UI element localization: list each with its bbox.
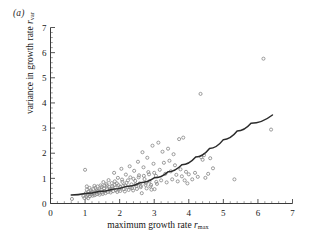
data-point — [179, 168, 182, 171]
x-tick-label: 4 — [187, 208, 192, 218]
y-axis-title-subscript: var — [28, 12, 35, 20]
minor-ticks — [51, 33, 286, 204]
y-tick-label: 3 — [42, 123, 47, 133]
data-point — [85, 185, 88, 188]
data-point — [204, 176, 207, 179]
x-tick-label: 7 — [290, 208, 295, 218]
major-ticks — [51, 28, 293, 204]
y-tick-label: 4 — [42, 98, 47, 108]
data-point — [128, 165, 131, 168]
data-point — [102, 181, 105, 184]
data-point — [110, 182, 113, 185]
data-point — [161, 150, 164, 153]
data-point — [137, 176, 140, 179]
data-point — [152, 162, 155, 165]
y-axis-title-variable: r — [25, 20, 35, 24]
data-point — [160, 179, 163, 182]
data-point — [153, 171, 156, 174]
data-point — [176, 180, 179, 183]
y-tick-label: 2 — [42, 148, 47, 158]
data-point — [142, 174, 145, 177]
x-axis-title-text: maximum growth rate — [107, 220, 194, 230]
data-point — [233, 178, 236, 181]
data-point — [136, 160, 139, 163]
data-point — [124, 173, 127, 176]
data-point — [191, 178, 194, 181]
data-point — [141, 151, 144, 154]
data-point — [165, 181, 168, 184]
data-point — [187, 173, 190, 176]
data-point — [168, 159, 171, 162]
data-point — [196, 175, 199, 178]
y-tick-label: 7 — [42, 23, 47, 33]
y-tick-label: 1 — [42, 174, 47, 184]
data-point — [113, 171, 116, 174]
data-point — [186, 182, 189, 185]
data-point — [270, 128, 273, 131]
x-axis-title-subscript: max — [198, 223, 209, 230]
data-point — [180, 175, 183, 178]
data-point — [140, 192, 143, 195]
data-point — [201, 158, 204, 161]
data-point — [133, 169, 136, 172]
data-point — [84, 168, 87, 171]
tick-labels: 0123456701234567 — [42, 23, 295, 218]
y-axis-title-text: variance in growth rate — [25, 24, 35, 114]
data-point — [182, 136, 185, 139]
data-point — [178, 138, 181, 141]
data-point — [183, 179, 186, 182]
data-point — [207, 172, 210, 175]
data-point — [171, 178, 174, 181]
data-point — [262, 57, 265, 60]
x-tick-label: 5 — [221, 208, 226, 218]
data-point — [70, 197, 73, 200]
data-point — [172, 153, 175, 156]
data-point — [146, 156, 149, 159]
data-point — [151, 144, 154, 147]
figure-panel: (a) 0123456701234567 maximum growth rate… — [0, 0, 316, 242]
data-point — [145, 187, 148, 190]
data-point — [193, 171, 196, 174]
data-point — [116, 176, 119, 179]
data-point — [126, 179, 129, 182]
scatter-plot-canvas: 0123456701234567 — [0, 0, 316, 242]
data-point — [143, 178, 146, 181]
data-point — [129, 176, 132, 179]
y-tick-label: 0 — [42, 199, 47, 209]
data-points — [70, 57, 272, 200]
data-point — [173, 164, 176, 167]
data-point — [153, 188, 156, 191]
data-point — [142, 166, 145, 169]
y-axis-title: variance in growth rate rvar — [25, 0, 35, 153]
data-point — [209, 157, 212, 160]
data-point — [211, 167, 214, 170]
x-axis-title: maximum growth rate rmax — [0, 220, 316, 230]
x-tick-label: 1 — [83, 208, 88, 218]
data-point — [107, 179, 110, 182]
y-tick-label: 5 — [42, 73, 47, 83]
data-point — [166, 147, 169, 150]
x-tick-label: 6 — [256, 208, 261, 218]
data-point — [199, 92, 202, 95]
data-point — [157, 141, 160, 144]
data-point — [175, 173, 178, 176]
x-tick-label: 0 — [48, 208, 53, 218]
x-tick-label: 3 — [152, 208, 157, 218]
data-point — [120, 167, 123, 170]
data-point — [150, 188, 153, 191]
y-tick-label: 6 — [42, 48, 47, 58]
data-point — [158, 168, 161, 171]
data-point — [184, 170, 187, 173]
x-tick-label: 2 — [117, 208, 122, 218]
data-point — [162, 161, 165, 164]
